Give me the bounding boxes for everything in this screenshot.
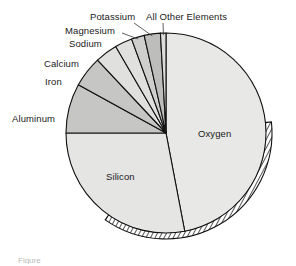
- slice-label-iron: Iron: [45, 76, 62, 87]
- figure-caption-partial: Figure: [18, 256, 138, 264]
- slice-label-all-other-elements: All Other Elements: [146, 11, 227, 22]
- pie-chart-figure: Potassium All Other Elements Magnesium S…: [0, 0, 296, 266]
- slice-label-oxygen: Oxygen: [198, 128, 231, 139]
- slice-label-sodium: Sodium: [69, 38, 102, 49]
- pie-slice-group: [66, 33, 266, 233]
- slice-label-potassium: Potassium: [90, 11, 135, 22]
- label-leader-line: [122, 33, 138, 39]
- slice-label-calcium: Calcium: [44, 58, 79, 69]
- slice-label-magnesium: Magnesium: [65, 25, 115, 36]
- pie-slice-silicon[interactable]: [66, 133, 185, 233]
- slice-label-silicon: Silicon: [106, 171, 135, 182]
- label-leader-line: [134, 23, 152, 36]
- slice-label-aluminum: Aluminum: [12, 113, 55, 124]
- pie-chart-canvas: [0, 0, 296, 266]
